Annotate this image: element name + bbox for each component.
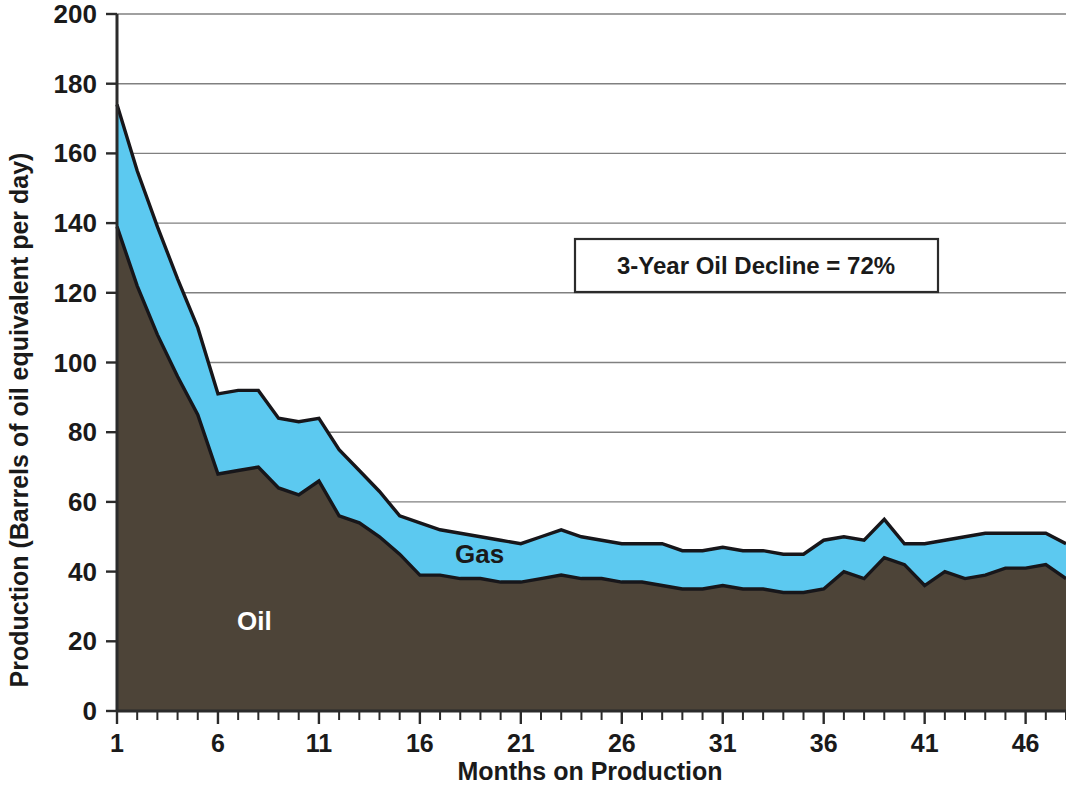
x-axis-tick-label: 16 xyxy=(406,729,434,757)
gas-series-label: Gas xyxy=(455,539,504,569)
y-axis-tick-label: 140 xyxy=(54,208,97,238)
production-decline-chart: 020406080100120140160180200 161116212631… xyxy=(0,0,1066,798)
y-axis-tick-label: 0 xyxy=(83,696,97,726)
y-axis-tick-label: 20 xyxy=(68,626,97,656)
oil-series-label: Oil xyxy=(237,606,272,636)
x-axis-tick-label: 46 xyxy=(1012,729,1040,757)
y-axis-title: Production (Barrels of oil equivalent pe… xyxy=(5,153,33,688)
y-axis-tick-labels-group: 020406080100120140160180200 xyxy=(54,0,97,726)
y-axis-tick-label: 80 xyxy=(68,417,97,447)
x-axis-ticks-group xyxy=(117,711,1066,724)
y-axis-tick-label: 100 xyxy=(54,348,97,378)
x-axis-tick-label: 31 xyxy=(709,729,737,757)
y-axis-tick-label: 200 xyxy=(54,0,97,29)
x-axis-title: Months on Production xyxy=(457,757,722,785)
y-axis-tick-label: 160 xyxy=(54,138,97,168)
y-axis-ticks-group xyxy=(106,14,117,711)
y-axis-tick-label: 120 xyxy=(54,278,97,308)
x-axis-tick-label: 26 xyxy=(608,729,636,757)
y-axis-tick-label: 40 xyxy=(68,557,97,587)
decline-callout: 3-Year Oil Decline = 72% xyxy=(575,239,938,292)
x-axis-tick-label: 36 xyxy=(810,729,838,757)
x-axis-tick-label: 1 xyxy=(110,729,124,757)
x-axis-tick-label: 11 xyxy=(306,729,333,757)
x-axis-tick-label: 41 xyxy=(911,729,939,757)
x-axis-tick-labels-group: 161116212631364146 xyxy=(110,729,1039,757)
decline-callout-label: 3-Year Oil Decline = 72% xyxy=(617,252,895,279)
chart-canvas: 020406080100120140160180200 161116212631… xyxy=(0,0,1066,798)
x-axis-tick-label: 21 xyxy=(507,729,535,757)
x-axis-tick-label: 6 xyxy=(211,729,225,757)
y-axis-tick-label: 60 xyxy=(68,487,97,517)
y-axis-tick-label: 180 xyxy=(54,69,97,99)
